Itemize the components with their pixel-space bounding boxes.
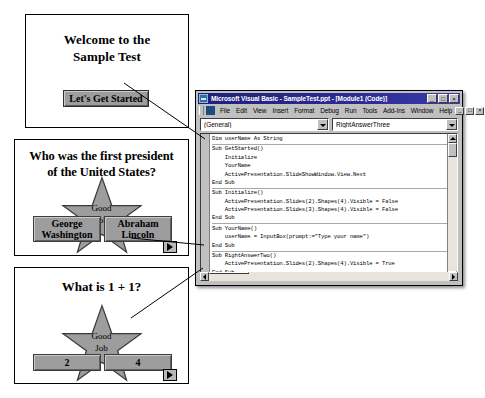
slide-2-answer-button-1[interactable]: GeorgeWashington <box>33 216 101 242</box>
menu-item-file[interactable]: File <box>217 107 233 114</box>
object-dropdown-value: (General) <box>201 121 317 128</box>
mdi-child-controls: _ □ × <box>455 107 485 115</box>
mdi-minimize-icon: _ <box>458 108 461 114</box>
minimize-icon: _ <box>430 96 433 102</box>
slide-3-answer-button-1[interactable]: 2 <box>33 354 101 371</box>
code-line: userName = InputBox(prompt:="Type your n… <box>212 233 447 241</box>
vbe-window-title: Microsoft Visual Basic - SampleTest.ppt … <box>211 95 427 102</box>
menu-item-tools[interactable]: Tools <box>359 107 380 114</box>
vbe-menu-bar[interactable]: File Edit View Insert Format Debug Run T… <box>198 105 460 116</box>
powerpoint-slide-2[interactable]: Who was the first presidentof the United… <box>14 139 189 256</box>
menu-item-edit[interactable]: Edit <box>233 107 250 114</box>
object-dropdown[interactable]: (General) <box>200 118 329 131</box>
menu-item-insert[interactable]: Insert <box>269 107 291 114</box>
procedure-dropdown-value: RightAnswerThree <box>333 121 446 128</box>
vertical-scroll-thumb[interactable] <box>448 143 457 157</box>
powerpoint-slide-3[interactable]: What is 1 + 1? GoodJob 2 4 <box>14 267 189 384</box>
code-margin-indicator-bar[interactable] <box>201 134 210 280</box>
mdi-close-button[interactable]: × <box>475 107 484 115</box>
slide-2-good-job-star: GoodJob <box>61 176 143 254</box>
vbe-title-bar[interactable]: Microsoft Visual Basic - SampleTest.ppt … <box>198 93 460 104</box>
code-line: Sub Initialize() <box>212 189 447 197</box>
scroll-up-button[interactable] <box>448 134 457 143</box>
code-line: Sub YourName() <box>212 225 447 233</box>
slide-2-answer-label-1: GeorgeWashington <box>41 218 92 241</box>
menu-item-add-ins[interactable]: Add-Ins <box>380 107 408 114</box>
slide-3-title: What is 1 + 1? <box>15 279 188 296</box>
close-button[interactable]: × <box>449 94 459 103</box>
code-text-area[interactable]: Dim userName As StringSub GetStarted() I… <box>210 134 447 280</box>
code-line: Sub GetStarted() <box>212 145 447 153</box>
menu-item-window[interactable]: Window <box>408 107 437 114</box>
code-line: ActivePresentation.Slides(2).Shapes(4).V… <box>212 198 447 206</box>
minimize-button[interactable]: _ <box>427 94 437 103</box>
mdi-minimize-button[interactable]: _ <box>455 107 464 115</box>
mdi-close-icon: × <box>478 108 481 114</box>
scroll-up-arrow-icon <box>450 137 456 140</box>
menu-item-debug[interactable]: Debug <box>317 107 342 114</box>
code-vertical-scrollbar[interactable] <box>447 134 457 280</box>
visual-basic-editor-window[interactable]: Microsoft Visual Basic - SampleTest.ppt … <box>195 90 463 286</box>
lets-get-started-label: Let's Get Started <box>69 93 142 104</box>
code-line: ActivePresentation.Slides(2).Shapes(4).V… <box>212 260 447 268</box>
menu-item-view[interactable]: View <box>250 107 270 114</box>
scroll-right-arrow-icon <box>452 274 455 280</box>
module-document-icon <box>206 106 215 115</box>
slide-2-answer-label-2: AbrahamLincoln <box>117 218 158 241</box>
menu-item-format[interactable]: Format <box>291 107 317 114</box>
mdi-restore-icon: □ <box>468 108 471 114</box>
code-horizontal-scrollbar[interactable] <box>200 272 458 281</box>
code-line: Sub RightAnswerTwo() <box>212 252 447 260</box>
scroll-left-button[interactable] <box>200 272 209 281</box>
menu-drag-grip[interactable] <box>199 106 204 115</box>
code-line: Dim userName As String <box>212 135 447 143</box>
maximize-icon: □ <box>441 96 445 102</box>
menu-item-run[interactable]: Run <box>342 107 360 114</box>
slide-2-advance-button[interactable] <box>163 241 177 253</box>
menu-item-help[interactable]: Help <box>436 107 455 114</box>
scroll-right-button[interactable] <box>449 272 458 281</box>
visual-basic-icon <box>199 94 208 103</box>
slide-3-answer-label-1: 2 <box>65 357 70 369</box>
procedure-dropdown[interactable]: RightAnswerThree <box>332 118 458 131</box>
chevron-down-icon[interactable] <box>446 119 457 130</box>
slide-3-star-label: GoodJob <box>61 330 143 354</box>
slide-3-answer-label-2: 4 <box>136 357 141 369</box>
close-icon: × <box>452 96 456 102</box>
vertical-scroll-track[interactable] <box>448 143 457 271</box>
mdi-restore-button[interactable]: □ <box>465 107 474 115</box>
code-line: End Sub <box>212 242 447 250</box>
code-line: ActivePresentation.SlideShowWindow.View.… <box>212 171 447 179</box>
horizontal-scroll-thumb[interactable] <box>209 272 249 274</box>
code-line: ActivePresentation.Slides(3).Shapes(4).V… <box>212 206 447 214</box>
powerpoint-slide-1[interactable]: Welcome to theSample Test Let's Get Star… <box>25 14 189 128</box>
chevron-down-icon[interactable] <box>317 119 328 130</box>
vbe-combo-row: (General) RightAnswerThree <box>200 118 458 131</box>
slide-2-answer-button-2[interactable]: AbrahamLincoln <box>104 216 172 242</box>
code-line: Initialize <box>212 154 447 162</box>
slide-3-advance-button[interactable] <box>163 369 177 381</box>
code-line: End Sub <box>212 214 447 222</box>
code-line: End Sub <box>212 179 447 187</box>
slide-1-title: Welcome to theSample Test <box>26 32 188 65</box>
code-editor-pane[interactable]: Dim userName As StringSub GetStarted() I… <box>200 133 458 281</box>
play-triangle-icon <box>167 371 173 379</box>
lets-get-started-button[interactable]: Let's Get Started <box>63 90 149 107</box>
scroll-left-arrow-icon <box>203 274 206 280</box>
play-triangle-icon <box>167 243 173 251</box>
horizontal-scroll-track[interactable] <box>209 272 449 281</box>
maximize-button[interactable]: □ <box>438 94 448 103</box>
window-controls: _ □ × <box>427 94 459 103</box>
code-line: YourName <box>212 162 447 170</box>
slide-3-answer-button-2[interactable]: 4 <box>104 354 172 371</box>
